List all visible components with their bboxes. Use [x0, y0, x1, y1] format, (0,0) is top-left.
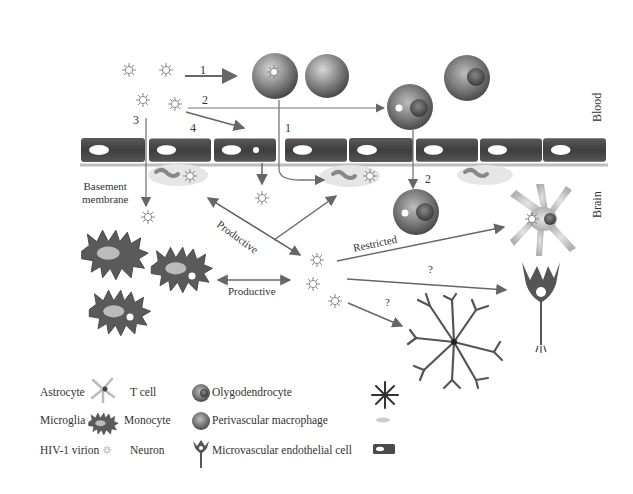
- virion-cluster-blood: [122, 63, 182, 111]
- monocyte-legend-icon: [376, 418, 390, 423]
- hiv-virion-icon: [168, 97, 182, 111]
- monocyte-blood: [444, 55, 490, 101]
- perivascular-zone-1: [148, 164, 208, 186]
- perivascular-zone-2: [320, 165, 380, 187]
- endothelial-layer: [81, 138, 606, 162]
- hiv-virion-icon: [306, 277, 320, 291]
- oligodendrocyte-cell: [408, 294, 502, 388]
- t-cell-infected: [252, 53, 298, 99]
- productive-horizontal-label: Productive: [228, 285, 276, 297]
- perivascular-macrophage-icon: [192, 412, 210, 430]
- astrocyte: [510, 184, 576, 256]
- endothelial-legend-icon: [373, 444, 395, 454]
- basement-line2: membrane: [82, 193, 128, 206]
- arrow-unknown-oligodendrocyte: [348, 303, 402, 326]
- legend-microglia: Microglia: [40, 414, 85, 426]
- t-cell-legend-icon: [372, 382, 398, 408]
- microglia-cell: [82, 230, 149, 279]
- legend-hiv-virion: HIV-1 virion: [40, 444, 99, 456]
- hiv-virion-icon: [328, 294, 342, 308]
- monocyte-infected-brain: [393, 189, 439, 235]
- unknown-neuron-label: ?: [428, 263, 433, 275]
- hiv-virion-icon: [122, 63, 136, 77]
- legend-t-cell: T cell: [130, 386, 156, 398]
- legend-perivascular-macrophage: Perivascular macrophage: [212, 414, 328, 426]
- astrocyte-icon: [92, 379, 114, 402]
- legend-neuron: Neuron: [130, 444, 165, 456]
- microglia-infected-2: [89, 290, 150, 336]
- route-3-label: 3: [133, 113, 139, 128]
- endothelial-cell-icon: [193, 440, 209, 468]
- legend-astrocyte: Astrocyte: [40, 386, 85, 398]
- t-cell: [305, 54, 349, 98]
- route-2-label: 2: [202, 93, 208, 108]
- hiv-virion-icon: [136, 93, 150, 107]
- microglia-icon: [89, 413, 119, 435]
- route-1-label: 1: [200, 63, 206, 78]
- hiv-virion-icon: [255, 191, 269, 205]
- arrow-productive-up: [274, 196, 336, 240]
- microglia-infected-1: [151, 247, 212, 293]
- hiv-virion-icon: [159, 63, 173, 77]
- hiv-virion-icon: [103, 446, 112, 455]
- basement-line1: Basement: [82, 180, 128, 193]
- hiv-virion-icon: [141, 210, 155, 224]
- oligodendrocyte-icon: [192, 384, 210, 402]
- unknown-oligo-label: ?: [385, 296, 390, 308]
- legend-endothelial-cell: Microvascular endothelial cell: [212, 444, 352, 456]
- perivascular-zone-3: [457, 165, 513, 185]
- route-2-crossing-label: 2: [425, 172, 431, 187]
- monocyte-infected-blood: [387, 84, 433, 130]
- basement-membrane-label: Basement membrane: [82, 180, 128, 206]
- route-4-label: 4: [190, 121, 196, 136]
- neuron-cell: [522, 262, 560, 353]
- blood-compartment-label: Blood: [590, 93, 605, 122]
- hiv-virion-icon: [310, 253, 324, 267]
- arrow-unknown-neuron: [347, 279, 506, 290]
- route-1-crossing-label: 1: [285, 121, 291, 136]
- legend-oligodendrocyte: Olygodendrocyte: [212, 386, 292, 398]
- legend-monocyte: Monocyte: [124, 414, 171, 426]
- brain-compartment-label: Brain: [590, 191, 605, 218]
